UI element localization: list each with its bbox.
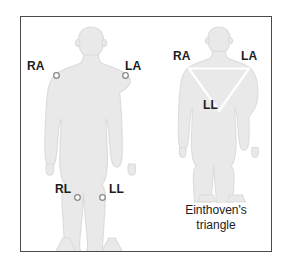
triangle-vertex-label-ll: LL	[203, 99, 218, 111]
lead-label-rl-left: RL	[55, 183, 71, 195]
lead-label-ll-left: LL	[109, 183, 124, 195]
einthoven-caption-line2: triangle	[161, 218, 271, 233]
electrode-marker-la[interactable]	[123, 73, 129, 79]
electrode-marker-rl[interactable]	[75, 195, 81, 201]
electrode-marker-ra[interactable]	[54, 73, 60, 79]
einthoven-caption-line1: Einthoven's	[161, 203, 271, 218]
panel-inner: RA LA RL LL	[21, 17, 271, 251]
lead-label-la-left: LA	[125, 60, 141, 72]
diagram-panel: RA LA RL LL	[20, 16, 272, 252]
triangle-vertex-label-la: LA	[241, 50, 257, 62]
einthoven-triangle-figure: RA LA LL Einthoven's triangle	[161, 17, 271, 251]
einthoven-caption: Einthoven's triangle	[161, 203, 271, 233]
electrode-marker-ll[interactable]	[100, 195, 106, 201]
lead-label-ra-left: RA	[27, 60, 45, 72]
triangle-vertex-label-ra: RA	[173, 50, 191, 62]
electrode-placement-figure: RA LA RL LL	[21, 17, 161, 251]
